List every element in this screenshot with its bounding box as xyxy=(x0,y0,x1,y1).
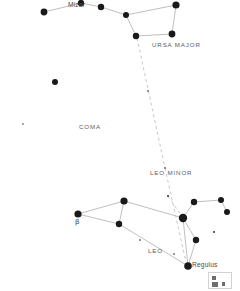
star-alioth xyxy=(98,4,104,10)
star-phecda xyxy=(133,33,139,39)
star-alkaid xyxy=(41,9,48,16)
star-leo-minor-a xyxy=(218,197,224,203)
corner-legend-box xyxy=(208,272,232,289)
constellation-line-adhafera-lma xyxy=(194,200,221,202)
constellation-line-denebola-upper xyxy=(78,201,124,214)
star-zosma xyxy=(116,221,122,227)
star-leo-upper xyxy=(120,197,127,204)
constellation-line-denebola-zosma xyxy=(78,214,119,224)
constellation-line-zosma-regulus xyxy=(119,224,188,266)
corner-mark-tick xyxy=(222,282,225,286)
star-adhafera xyxy=(191,199,197,205)
star-merak xyxy=(169,31,176,38)
constellation-line-megrez-dubhe xyxy=(126,5,176,15)
star-regulus xyxy=(184,262,192,270)
constellation-lines xyxy=(44,3,227,266)
star-mizar xyxy=(78,0,84,6)
constellation-line-alkaid-mizar xyxy=(44,3,81,12)
corner-mark-small xyxy=(212,276,216,280)
constellation-line-dubhe-merak xyxy=(172,5,176,34)
star-dubhe xyxy=(172,1,179,8)
star-leo-minor-b xyxy=(224,209,230,215)
star-denebola xyxy=(74,210,81,217)
constellation-line-alioth-megrez xyxy=(101,7,126,15)
star-points xyxy=(22,0,230,270)
pointer-line-pointer-line xyxy=(137,38,165,168)
star-algieba xyxy=(179,214,187,222)
star-rho-leonis xyxy=(193,237,199,243)
star-megrez xyxy=(123,12,129,18)
star-leo-faint-3 xyxy=(213,231,215,233)
sky-canvas xyxy=(0,0,240,291)
constellation-line-rho-regulus xyxy=(188,240,196,266)
pointer-lines xyxy=(137,38,186,262)
constellation-line-phecda-megrez xyxy=(126,15,136,36)
star-chart: Mizar URSA MAJOR COMA LEO MINOR LEO Regu… xyxy=(0,0,240,291)
star-leo-faint-2 xyxy=(173,253,175,255)
corner-mark-large xyxy=(212,282,218,287)
star-pointer-low xyxy=(164,167,166,169)
star-leo-faint-1 xyxy=(139,239,141,241)
star-pointer-mid xyxy=(147,90,149,92)
star-coma-faint xyxy=(22,123,23,124)
constellation-line-merak-phecda xyxy=(136,34,172,36)
star-leo-faint-4 xyxy=(167,195,169,197)
star-coma-star xyxy=(52,79,58,85)
